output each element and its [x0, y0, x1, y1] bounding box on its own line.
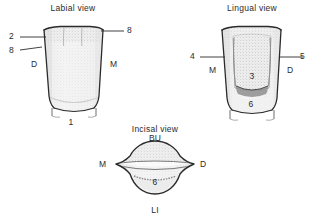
labial-label-8-left: 8: [9, 46, 14, 55]
lingual-view-title: Lingual view: [227, 4, 277, 13]
lingual-label-5: 5: [300, 52, 305, 61]
labial-leader-line-8-left: [20, 47, 42, 50]
incisal-view-drawing: [112, 138, 200, 198]
labial-developmental-groove-distal: [63, 28, 64, 46]
labial-orientation-mesial: M: [110, 60, 117, 69]
labial-label-2: 2: [9, 32, 14, 41]
lingual-fossa-region: [233, 34, 271, 91]
incisal-labial-surface: [116, 140, 194, 164]
incisal-orientation-mesial: M: [99, 160, 106, 169]
lingual-number-6: 6: [249, 100, 254, 109]
incisal-orientation-lingual: LI: [151, 206, 159, 215]
lingual-label-4: 4: [190, 52, 195, 61]
tooth-views-figure: Labial view 2 8 8 D M 1 Lingual view 4 5…: [0, 0, 310, 224]
labial-label-8-right: 8: [127, 26, 132, 35]
incisal-number-6: 6: [153, 178, 158, 187]
incisal-orientation-distal: D: [200, 160, 206, 169]
labial-view-title: Labial view: [51, 4, 96, 13]
lingual-orientation-mesial: M: [209, 66, 216, 75]
incisal-orientation-buccal: BU: [149, 134, 161, 143]
diagram-canvas: [0, 0, 310, 224]
lingual-number-3: 3: [250, 72, 255, 81]
lingual-orientation-distal: D: [287, 66, 293, 75]
labial-orientation-distal: D: [31, 60, 37, 69]
labial-number-1: 1: [69, 118, 74, 127]
labial-view-drawing: [20, 24, 124, 117]
